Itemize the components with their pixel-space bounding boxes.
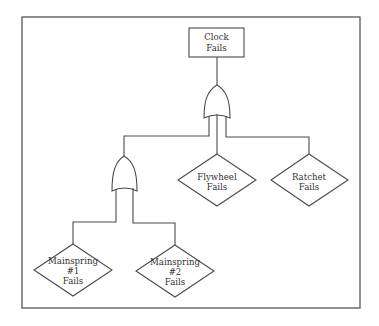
basic-event-mainspring-2-fails: Mainspring #2 Fails xyxy=(136,245,214,297)
clock-label-line1: Clock xyxy=(204,32,229,42)
ratchet-label-line1: Ratchet xyxy=(292,172,327,182)
clock-label-line2: Fails xyxy=(206,43,226,53)
top-event-clock-fails: Clock Fails xyxy=(189,28,244,57)
ratchet-label-line2: Fails xyxy=(299,182,319,192)
mainspring1-label-line1: Mainspring xyxy=(48,256,99,266)
flywheel-label-line1: Flywheel xyxy=(197,172,237,182)
mainspring2-label-line3: Fails xyxy=(165,277,185,287)
connector-line xyxy=(73,189,116,244)
mainspring2-label-line2: #2 xyxy=(169,267,182,277)
flywheel-label-line2: Fails xyxy=(207,182,227,192)
basic-event-mainspring-1-fails: Mainspring #1 Fails xyxy=(34,244,112,296)
basic-event-flywheel-fails: Flywheel Fails xyxy=(178,154,256,206)
fault-tree-diagram: Clock Fails Flywheel Fails Ratchet Fails… xyxy=(0,0,379,326)
mainspring1-label-line3: Fails xyxy=(63,276,83,286)
basic-event-ratchet-fails: Ratchet Fails xyxy=(271,154,348,206)
connector-line xyxy=(133,188,175,245)
mainspring1-label-line2: #1 xyxy=(67,266,80,276)
connector-line xyxy=(226,116,309,154)
or-gate-icon xyxy=(204,85,230,118)
connector-line xyxy=(124,116,209,156)
or-gate-icon xyxy=(112,156,137,191)
mainspring2-label-line1: Mainspring xyxy=(150,257,201,267)
